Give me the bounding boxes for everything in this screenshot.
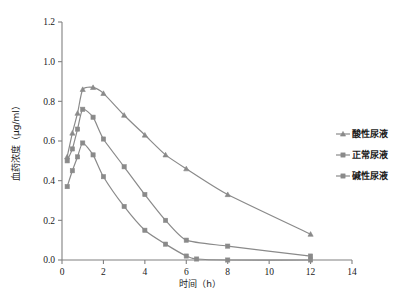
data-series xyxy=(65,85,314,262)
x-tick-label: 10 xyxy=(264,267,274,277)
series-3 xyxy=(65,141,313,262)
y-tick-label: 0.6 xyxy=(43,136,55,146)
x-tick-label: 14 xyxy=(347,267,357,277)
axes: 0.00.20.40.60.81.01.202468101214 xyxy=(43,17,357,277)
x-tick-label: 12 xyxy=(306,267,316,277)
data-point-marker xyxy=(184,166,189,171)
data-point-marker xyxy=(163,242,167,246)
y-axis-title: 血药浓度（μg/ml） xyxy=(10,101,21,181)
data-point-marker xyxy=(101,175,105,179)
legend-item-3[interactable]: 碱性尿液 xyxy=(336,170,389,181)
data-point-marker xyxy=(75,127,79,131)
series-line xyxy=(67,87,310,234)
y-tick-label: 1.2 xyxy=(43,17,55,27)
data-point-marker xyxy=(91,153,95,157)
data-point-marker xyxy=(65,185,69,189)
data-point-marker xyxy=(341,174,345,178)
legend-item-label: 碱性尿液 xyxy=(352,170,389,181)
data-point-marker xyxy=(81,141,85,145)
chart-container: 0.00.20.40.60.81.01.202468101214 酸性尿液正常尿… xyxy=(0,0,410,293)
y-tick-label: 0.8 xyxy=(43,97,55,107)
data-point-marker xyxy=(101,137,105,141)
data-point-marker xyxy=(184,254,188,258)
legend-item-label: 酸性尿液 xyxy=(352,128,389,139)
legend-item-1[interactable]: 酸性尿液 xyxy=(336,128,389,139)
data-point-marker xyxy=(75,111,80,116)
series-2 xyxy=(65,107,313,258)
y-tick-label: 1.0 xyxy=(43,57,55,67)
data-point-marker xyxy=(122,204,126,208)
data-point-marker xyxy=(70,147,74,151)
data-point-marker xyxy=(91,115,95,119)
series-line xyxy=(67,143,310,260)
x-tick-label: 6 xyxy=(184,267,189,277)
x-tick-label: 8 xyxy=(225,267,230,277)
x-axis-title: 时间（h） xyxy=(179,278,221,289)
data-point-marker xyxy=(341,153,345,157)
x-tick-label: 4 xyxy=(142,267,147,277)
data-point-marker xyxy=(75,155,79,159)
y-tick-label: 0.0 xyxy=(43,255,55,265)
data-point-marker xyxy=(143,192,147,196)
series-1 xyxy=(65,85,314,236)
data-point-marker xyxy=(195,257,199,261)
data-point-marker xyxy=(226,258,230,262)
data-point-marker xyxy=(308,258,312,262)
y-tick-label: 0.2 xyxy=(43,216,55,226)
data-point-marker xyxy=(122,165,126,169)
data-point-marker xyxy=(163,218,167,222)
data-point-marker xyxy=(184,238,188,242)
data-point-marker xyxy=(143,228,147,232)
data-point-marker xyxy=(70,169,74,173)
data-point-marker xyxy=(308,254,312,258)
legend-item-label: 正常尿液 xyxy=(352,149,389,160)
data-point-marker xyxy=(81,107,85,111)
chart-svg: 0.00.20.40.60.81.01.202468101214 酸性尿液正常尿… xyxy=(0,0,410,293)
y-tick-label: 0.4 xyxy=(43,176,55,186)
data-point-marker xyxy=(225,192,230,197)
x-tick-label: 2 xyxy=(101,267,106,277)
x-tick-label: 0 xyxy=(60,267,65,277)
series-line xyxy=(67,109,310,256)
data-point-marker xyxy=(70,130,75,135)
data-point-marker xyxy=(226,244,230,248)
chart-legend: 酸性尿液正常尿液碱性尿液 xyxy=(336,128,389,181)
legend-item-2[interactable]: 正常尿液 xyxy=(336,149,389,160)
data-point-marker xyxy=(65,159,69,163)
